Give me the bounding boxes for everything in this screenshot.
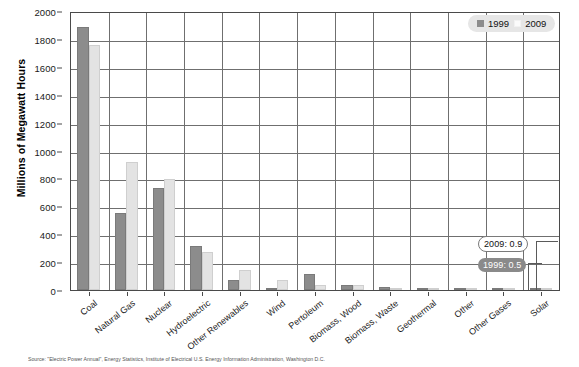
- bar-group: [410, 13, 448, 290]
- bar: [190, 246, 201, 291]
- x-axis-tick-mark: [127, 292, 128, 296]
- x-axis: CoalNatural GasNuclearHydroelectricOther…: [70, 292, 560, 354]
- x-axis-tick-label: Wind: [265, 298, 287, 319]
- x-axis-tick-label: Solar: [529, 298, 552, 319]
- leader-line: [528, 263, 542, 264]
- y-axis-tick-label: 2000: [34, 7, 56, 18]
- bar: [266, 288, 277, 290]
- bar: [115, 213, 126, 290]
- x-axis-tick-label: Other: [452, 298, 476, 320]
- x-axis-tick-mark: [164, 292, 165, 296]
- callout-1999: 1999: 0.5: [478, 258, 526, 272]
- x-axis-tick-mark: [503, 292, 504, 296]
- bar-group: [335, 13, 373, 290]
- x-axis-tick-mark: [202, 292, 203, 296]
- bar: [353, 285, 364, 290]
- leader-line: [528, 263, 529, 290]
- bar: [202, 252, 213, 290]
- y-axis-tick-mark: [57, 12, 62, 13]
- y-axis-tick-mark: [57, 291, 62, 292]
- bar-chart: Millions of Megawatt Hours 2000180016001…: [0, 0, 579, 367]
- y-axis-tick-mark: [57, 151, 62, 152]
- bar: [428, 288, 439, 290]
- legend-label-1999: 1999: [488, 18, 509, 29]
- bar: [492, 288, 503, 290]
- bar: [503, 288, 514, 290]
- bar: [277, 280, 288, 290]
- bar-group: [523, 13, 561, 290]
- x-axis-tick-mark: [390, 292, 391, 296]
- y-axis-tick-label: 1200: [34, 118, 56, 129]
- y-axis-tick-label: 1800: [34, 34, 56, 45]
- legend-swatch-2009-icon: [514, 20, 521, 27]
- y-axis-tick-label: 800: [40, 174, 56, 185]
- x-axis-tick-mark: [240, 292, 241, 296]
- bar: [379, 287, 390, 290]
- bar: [341, 285, 352, 290]
- y-axis-tick-label: 0: [51, 286, 56, 297]
- leader-line: [536, 241, 537, 290]
- bar: [390, 288, 401, 291]
- bar: [454, 288, 465, 290]
- y-axis-tick-mark: [57, 123, 62, 124]
- x-axis-tick-mark: [353, 292, 354, 296]
- x-axis-tick-label: Coal: [78, 298, 99, 317]
- y-axis: 2000180016001400120010008006004002000: [0, 0, 70, 303]
- y-axis-tick-mark: [57, 263, 62, 264]
- callout-2009: 2009: 0.9: [478, 236, 528, 252]
- y-axis-tick-mark: [57, 67, 62, 68]
- y-axis-tick-label: 600: [40, 202, 56, 213]
- y-axis-tick-mark: [57, 235, 62, 236]
- bar-group: [109, 13, 147, 290]
- chart-legend[interactable]: 1999 2009: [468, 15, 555, 32]
- x-axis-tick-mark: [277, 292, 278, 296]
- y-axis-tick-mark: [57, 39, 62, 40]
- x-axis-tick-mark: [541, 292, 542, 296]
- bar-group: [297, 13, 335, 290]
- y-axis-tick-label: 1000: [34, 146, 56, 157]
- x-axis-tick-mark: [89, 292, 90, 296]
- legend-item-1999[interactable]: 1999: [477, 18, 509, 29]
- bar-group: [71, 13, 109, 290]
- legend-item-2009[interactable]: 2009: [514, 18, 546, 29]
- bar: [315, 285, 326, 290]
- bar: [89, 45, 100, 290]
- bar: [239, 270, 250, 290]
- legend-swatch-1999-icon: [477, 20, 484, 27]
- x-axis-tick-label: Geothermal: [395, 298, 438, 335]
- bar-group: [222, 13, 260, 290]
- y-axis-tick-label: 1400: [34, 90, 56, 101]
- x-axis-tick-mark: [315, 292, 316, 296]
- bar-group: [259, 13, 297, 290]
- bar: [304, 274, 315, 290]
- bar: [466, 288, 477, 290]
- bar: [77, 27, 88, 290]
- y-axis-tick-label: 200: [40, 258, 56, 269]
- x-axis-tick-label: Natural Gas: [93, 298, 137, 335]
- legend-label-2009: 2009: [525, 18, 546, 29]
- bar: [228, 280, 239, 290]
- bar-group: [184, 13, 222, 290]
- bar: [153, 188, 164, 290]
- y-axis-tick-label: 400: [40, 230, 56, 241]
- x-axis-tick-label: Nuclear: [144, 298, 175, 325]
- y-axis-tick-mark: [57, 95, 62, 96]
- bar-group: [146, 13, 184, 290]
- y-axis-tick-mark: [57, 179, 62, 180]
- bar: [417, 288, 428, 290]
- bar: [126, 162, 137, 290]
- bar-group: [373, 13, 411, 290]
- leader-line: [536, 241, 558, 242]
- y-axis-tick-mark: [57, 207, 62, 208]
- x-axis-tick-mark: [466, 292, 467, 296]
- source-note: Source: "Electric Power Annual", Energy …: [28, 356, 568, 362]
- bar: [164, 179, 175, 290]
- bar: [541, 288, 552, 290]
- x-axis-tick-mark: [428, 292, 429, 296]
- y-axis-tick-label: 1600: [34, 62, 56, 73]
